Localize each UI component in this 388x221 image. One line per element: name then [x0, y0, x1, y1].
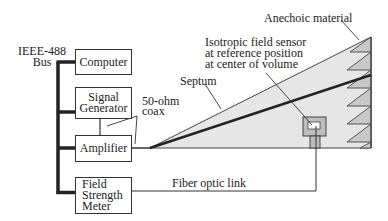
computer-box: Computer — [75, 49, 132, 75]
septum-label: Septum — [180, 75, 217, 87]
signal-generator-box: Signal Generator — [75, 87, 132, 119]
bus-label: IEEE-488 Bus — [18, 46, 66, 68]
anechoic-label: Anechoic material — [264, 12, 352, 24]
sensor-label: Isotropic field sensor at reference posi… — [205, 37, 306, 70]
ieee-488-bus — [57, 62, 76, 194]
fiber-label: Fiber optic link — [172, 177, 246, 189]
field-strength-meter-box: Field Strength Meter — [75, 177, 132, 214]
amplifier-box: Amplifier — [75, 135, 132, 162]
coax-label: 50-ohm coax — [142, 96, 179, 116]
